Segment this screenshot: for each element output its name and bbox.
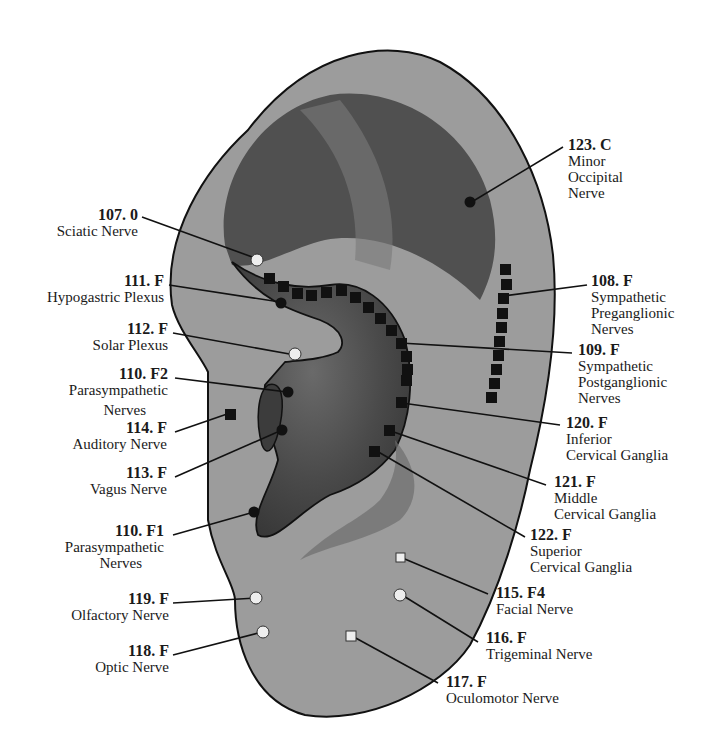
label-117: 117. F Oculomotor Nerve bbox=[446, 674, 559, 706]
label-code: 113. F bbox=[90, 465, 167, 481]
label-code: 110. F1 bbox=[65, 523, 164, 539]
label-119: 119. F Olfactory Nerve bbox=[71, 591, 169, 623]
label-116: 116. F Trigeminal Nerve bbox=[486, 630, 593, 662]
label-name: Sympathetic bbox=[578, 358, 667, 374]
label-name: Parasympathetic bbox=[69, 382, 168, 398]
label-name: Trigeminal Nerve bbox=[486, 646, 593, 662]
label-name: Solar Plexus bbox=[93, 337, 168, 353]
label-109: 109. F Sympathetic Postganglionic Nerves bbox=[578, 342, 667, 406]
label-name: Auditory Nerve bbox=[72, 436, 167, 452]
label-name: Middle bbox=[554, 490, 656, 506]
label-name: Olfactory Nerve bbox=[71, 607, 169, 623]
marker-114 bbox=[225, 409, 236, 420]
marker-120 bbox=[396, 397, 407, 408]
label-code: 110. F2 bbox=[69, 366, 168, 382]
label-name-2: Cervical Ganglia bbox=[554, 506, 656, 522]
label-122: 122. F Superior Cervical Ganglia bbox=[530, 527, 632, 575]
label-code: 115. F4 bbox=[496, 585, 573, 601]
label-name: Inferior bbox=[566, 431, 668, 447]
label-name-3: Nerve bbox=[568, 185, 623, 201]
label-123: 123. C Minor Occipital Nerve bbox=[568, 137, 623, 201]
label-118: 118. F Optic Nerve bbox=[95, 643, 169, 675]
label-code: 107. 0 bbox=[57, 207, 138, 223]
label-120: 120. F Inferior Cervical Ganglia bbox=[566, 415, 668, 463]
label-name-3: Nerves bbox=[578, 390, 667, 406]
marker-117 bbox=[346, 631, 356, 641]
marker-111 bbox=[276, 298, 287, 309]
label-name: Oculomotor Nerve bbox=[446, 690, 559, 706]
label-code: 114. F bbox=[72, 420, 167, 436]
label-name-2: Cervical Ganglia bbox=[530, 559, 632, 575]
label-115: 115. F4 Facial Nerve bbox=[496, 585, 573, 617]
label-121: 121. F Middle Cervical Ganglia bbox=[554, 474, 656, 522]
label-name: Sciatic Nerve bbox=[57, 223, 138, 239]
label-113: 113. F Vagus Nerve bbox=[90, 465, 167, 497]
label-name: Parasympathetic bbox=[65, 539, 164, 555]
label-name: Facial Nerve bbox=[496, 601, 573, 617]
marker-110f1 bbox=[249, 507, 260, 518]
marker-118 bbox=[257, 626, 269, 638]
label-110f2: 110. F2 Parasympathetic Nerves bbox=[69, 366, 168, 418]
label-name-3: Nerves bbox=[591, 321, 674, 337]
label-code: 112. F bbox=[93, 321, 168, 337]
label-code: 116. F bbox=[486, 630, 593, 646]
label-code: 119. F bbox=[71, 591, 169, 607]
label-code: 111. F bbox=[47, 273, 164, 289]
label-name: Hypogastric Plexus bbox=[47, 289, 164, 305]
marker-119 bbox=[250, 592, 262, 604]
marker-123 bbox=[465, 197, 476, 208]
marker-121 bbox=[384, 425, 395, 436]
marker-107 bbox=[251, 254, 263, 266]
label-code: 123. C bbox=[568, 137, 623, 153]
marker-122 bbox=[369, 446, 380, 457]
label-code: 122. F bbox=[530, 527, 632, 543]
label-name-2: Preganglionic bbox=[591, 305, 674, 321]
label-111: 111. F Hypogastric Plexus bbox=[47, 273, 164, 305]
marker-112 bbox=[289, 348, 301, 360]
label-name: Minor bbox=[568, 153, 623, 169]
marker-113 bbox=[277, 425, 288, 436]
label-name: Vagus Nerve bbox=[90, 481, 167, 497]
label-114: 114. F Auditory Nerve bbox=[72, 420, 167, 452]
label-name-2: Nerves bbox=[65, 555, 142, 571]
marker-110f2 bbox=[283, 387, 294, 398]
marker-116 bbox=[394, 589, 406, 601]
label-110f1: 110. F1 Parasympathetic Nerves bbox=[65, 523, 164, 571]
label-name-2: Cervical Ganglia bbox=[566, 447, 668, 463]
label-code: 108. F bbox=[591, 273, 674, 289]
label-code: 117. F bbox=[446, 674, 559, 690]
label-name: Superior bbox=[530, 543, 632, 559]
label-name: Sympathetic bbox=[591, 289, 674, 305]
label-code: 120. F bbox=[566, 415, 668, 431]
marker-115 bbox=[396, 553, 405, 562]
label-108: 108. F Sympathetic Preganglionic Nerves bbox=[591, 273, 674, 337]
label-code: 121. F bbox=[554, 474, 656, 490]
label-code: 118. F bbox=[95, 643, 169, 659]
label-107: 107. 0 Sciatic Nerve bbox=[57, 207, 138, 239]
label-name-2: Postganglionic bbox=[578, 374, 667, 390]
label-name-2: Nerves bbox=[69, 402, 146, 418]
label-name-2: Occipital bbox=[568, 169, 623, 185]
label-code: 109. F bbox=[578, 342, 667, 358]
label-112: 112. F Solar Plexus bbox=[93, 321, 168, 353]
label-name: Optic Nerve bbox=[95, 659, 169, 675]
